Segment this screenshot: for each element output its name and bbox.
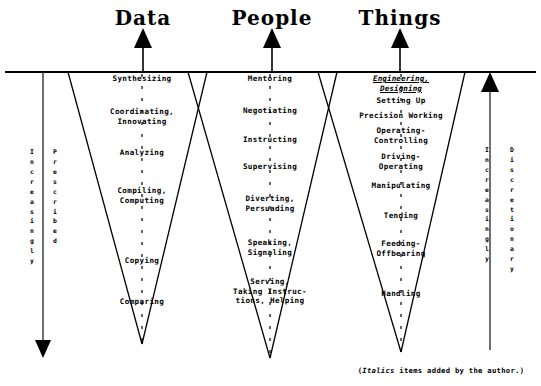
column-arrow-head-things [391, 28, 409, 48]
function-label-things-8: Handling [381, 289, 420, 299]
footnote-italic-word: Italics [362, 366, 394, 375]
function-label-things-4: Driving- Operating [379, 152, 423, 171]
function-label-data-2: Analyzing [120, 148, 164, 158]
function-label-people-0: Mentoring [248, 74, 292, 84]
left-axis-arrowhead-down [35, 340, 51, 358]
function-label-data-5: Comparing [120, 297, 164, 307]
right-axis-word-increasingly: Increasingly [482, 146, 492, 265]
column-arrow-group [134, 28, 409, 72]
column-arrow-head-data [134, 28, 152, 48]
function-label-things-2: Precision Working [359, 111, 443, 121]
function-label-things-3: Operating- Controlling [374, 126, 428, 145]
column-title-people: People [232, 8, 313, 28]
function-label-things-5: Manipulating [371, 181, 430, 191]
function-label-data-3: Compiling, Computing [117, 186, 166, 205]
function-label-things-7: Feeding- Offbearing [376, 239, 425, 258]
function-label-things-0: Engineering, Designing [373, 74, 429, 93]
figure-line-art [0, 0, 541, 386]
function-label-people-6: Serving, Taking Instruc- tions, Helping [233, 277, 307, 306]
column-title-data: Data [115, 8, 172, 28]
right-axis-arrowhead-up [481, 72, 499, 92]
left-axis-word-prescribed: Prescribed [50, 148, 60, 247]
left-axis-word-increasingly: Increasingly [27, 148, 37, 267]
right-axis-word-discretionary: Discretionary [507, 146, 517, 275]
function-label-people-1: Negotiating [243, 106, 297, 116]
function-label-data-4: Copying [125, 256, 159, 266]
function-label-people-4: Diverting, Persuading [245, 194, 294, 213]
function-label-things-6: Tending [384, 211, 418, 221]
function-label-people-2: Instructing [243, 135, 297, 145]
function-label-things-1: Setting Up [376, 96, 425, 106]
function-label-people-3: Supervising [243, 162, 297, 172]
author-footnote: (Italics items added by the author.) [358, 366, 525, 375]
worker-functions-figure: Data People Things SynthesizingCoordinat… [0, 0, 541, 386]
column-arrow-head-people [263, 28, 281, 48]
function-label-data-0: Synthesizing [112, 74, 171, 84]
column-title-things: Things [359, 8, 442, 28]
function-label-people-5: Speaking, Signaling [248, 238, 292, 257]
function-label-data-1: Coordinating, Innovating [110, 107, 174, 126]
